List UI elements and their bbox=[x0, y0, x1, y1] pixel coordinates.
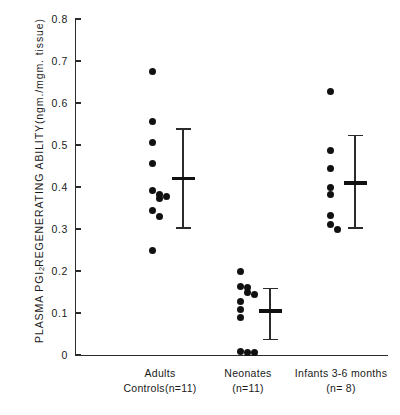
error-bar-line bbox=[269, 288, 270, 341]
y-tick-label: 0.2 bbox=[0, 265, 68, 277]
data-point bbox=[149, 207, 156, 214]
x-axis-spine bbox=[75, 355, 388, 356]
y-tick-mark bbox=[75, 312, 81, 313]
data-point bbox=[237, 283, 244, 290]
data-point bbox=[149, 68, 156, 75]
mean-marker bbox=[172, 177, 195, 180]
y-tick-label: 0.7 bbox=[0, 55, 68, 67]
y-tick-mark bbox=[75, 18, 81, 19]
data-point bbox=[156, 213, 163, 220]
y-tick-label: 0.3 bbox=[0, 223, 68, 235]
data-point bbox=[149, 118, 156, 125]
mean-marker bbox=[344, 181, 367, 184]
data-point bbox=[327, 221, 334, 228]
y-tick-label: 0.6 bbox=[0, 97, 68, 109]
data-point bbox=[334, 226, 341, 233]
data-point bbox=[237, 298, 244, 305]
data-point bbox=[327, 184, 334, 191]
error-bar-cap-upper bbox=[348, 135, 363, 137]
data-point bbox=[149, 187, 156, 194]
scatter-plot-figure: PLASMA PGI2 REGENERATING ABILITY(ngm./mg… bbox=[0, 0, 400, 415]
y-tick-mark bbox=[75, 228, 81, 229]
mean-marker bbox=[259, 309, 282, 312]
data-point bbox=[163, 193, 170, 200]
y-tick-mark bbox=[75, 270, 81, 271]
group-label-count: (n= 8) bbox=[282, 381, 400, 396]
error-bar-cap-lower bbox=[263, 339, 278, 341]
data-point bbox=[237, 314, 244, 321]
data-point bbox=[244, 289, 251, 296]
data-point bbox=[149, 139, 156, 146]
error-bar-cap-lower bbox=[348, 227, 363, 229]
y-tick-mark bbox=[75, 60, 81, 61]
error-bar-cap-lower bbox=[176, 227, 191, 229]
data-point bbox=[149, 247, 156, 254]
data-point bbox=[156, 195, 163, 202]
data-point bbox=[251, 349, 258, 356]
data-point bbox=[327, 88, 334, 95]
data-point bbox=[149, 160, 156, 167]
data-point bbox=[327, 147, 334, 154]
data-point bbox=[237, 348, 244, 355]
y-tick-mark bbox=[75, 102, 81, 103]
error-bar-cap-upper bbox=[176, 128, 191, 130]
data-point bbox=[327, 212, 334, 219]
error-bar-cap-upper bbox=[263, 288, 278, 290]
data-point bbox=[251, 291, 258, 298]
data-point bbox=[327, 165, 334, 172]
y-tick-label: 0.8 bbox=[0, 13, 68, 25]
y-tick-mark bbox=[75, 354, 81, 355]
y-tick-mark bbox=[75, 144, 81, 145]
data-point bbox=[237, 306, 244, 313]
data-point bbox=[327, 191, 334, 198]
group-label-primary: Infants 3-6 months bbox=[282, 366, 400, 381]
y-tick-label: 0.4 bbox=[0, 181, 68, 193]
y-tick-mark bbox=[75, 186, 81, 187]
y-tick-label: 0.5 bbox=[0, 139, 68, 151]
group-label-infants: Infants 3-6 months(n= 8) bbox=[282, 366, 400, 396]
data-point bbox=[237, 268, 244, 275]
data-point bbox=[244, 349, 251, 356]
y-tick-label: 0.1 bbox=[0, 307, 68, 319]
y-tick-label: 0 bbox=[0, 349, 68, 361]
